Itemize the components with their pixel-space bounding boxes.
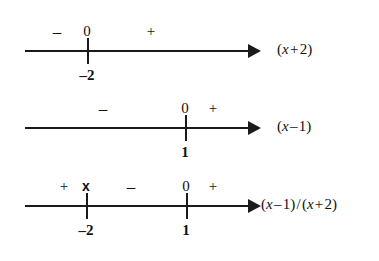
tick-mark — [186, 193, 188, 219]
expression-operator: + — [290, 41, 298, 57]
expression-label: (x + 2) — [277, 41, 312, 57]
sign-zero: 0 — [181, 101, 189, 116]
expression-division-slash: / — [296, 196, 300, 212]
sign-positive: + — [209, 179, 217, 194]
axis-rule — [25, 205, 248, 207]
axis-rule — [25, 50, 248, 52]
expression-close-paren: ) — [306, 118, 311, 134]
expression-label: (x – 1) / (x + 2) — [261, 196, 337, 212]
axis-arrowhead-icon — [248, 44, 261, 58]
expression-variable: x — [282, 118, 289, 134]
expression-operator: + — [315, 196, 323, 212]
figure-canvas: – 0 + –2 (x + 2) – 0 + 1 (x – 1) + x – 0… — [0, 0, 379, 261]
tick-mark — [86, 193, 88, 219]
sign-negative: – — [99, 101, 108, 116]
expression-label: (x – 1) — [277, 118, 311, 134]
axis-arrowhead-icon — [248, 121, 261, 135]
expression-number: 2 — [325, 196, 333, 212]
tick-mark — [87, 38, 89, 64]
sign-negative: – — [53, 24, 62, 39]
expression-variable: x — [307, 196, 314, 212]
number-line-x-minus-1: – 0 + 1 (x – 1) — [0, 91, 379, 169]
axis-rule — [25, 127, 248, 129]
expression-variable: x — [266, 196, 273, 212]
tick-value-label: 1 — [182, 223, 190, 238]
sign-zero: 0 — [182, 179, 190, 194]
tick-mark — [185, 115, 187, 141]
expression-variable: x — [282, 41, 289, 57]
tick-value-label: –2 — [79, 223, 94, 238]
tick-value-label: –2 — [80, 68, 95, 83]
expression-close-paren: ) — [307, 41, 312, 57]
expression-close-paren: ) — [332, 196, 337, 212]
expression-operator: – — [274, 196, 282, 212]
axis-arrowhead-icon — [248, 199, 261, 213]
sign-positive: + — [60, 179, 68, 194]
sign-negative: – — [127, 179, 136, 194]
number-line-quotient: + x – 0 + –2 1 (x – 1) / (x + 2) — [0, 169, 379, 247]
sign-positive: + — [147, 24, 155, 39]
expression-operator: – — [290, 118, 298, 134]
sign-positive: + — [209, 101, 217, 116]
number-line-x-plus-2: – 0 + –2 (x + 2) — [0, 14, 379, 92]
expression-close-paren: ) — [290, 196, 295, 212]
sign-undefined-x: x — [82, 179, 90, 194]
sign-zero: 0 — [83, 24, 91, 39]
tick-value-label: 1 — [181, 145, 189, 160]
